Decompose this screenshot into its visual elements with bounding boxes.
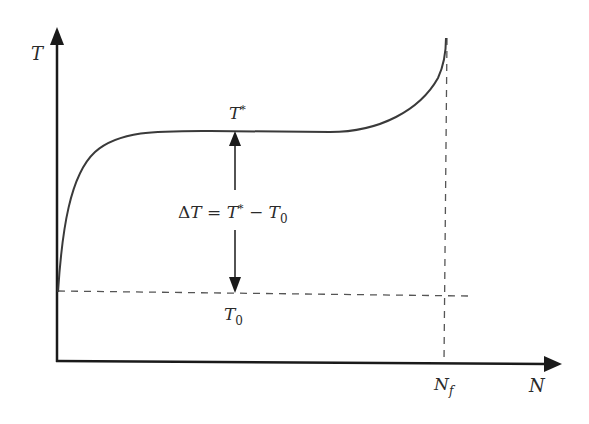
nf-reference-line (444, 38, 447, 362)
nf-label: Nf (433, 374, 456, 398)
delta-t-equation: ΔT = T* − T0 (178, 202, 288, 226)
temperature-vs-cycles-diagram: T N T* T0 Nf ΔT = T* − T0 (0, 0, 589, 424)
x-axis-label: N (528, 375, 546, 396)
t-star-label: T* (229, 103, 246, 123)
t-zero-label: T0 (224, 304, 243, 328)
y-axis (50, 27, 64, 362)
y-axis-label: T (31, 43, 45, 64)
temperature-curve (58, 38, 446, 292)
arrow-down-icon (229, 277, 241, 293)
t0-reference-line (58, 291, 470, 296)
arrow-up-icon (229, 131, 241, 146)
y-axis-arrow-icon (50, 27, 64, 45)
x-axis (56, 356, 562, 372)
x-axis-arrow-icon (544, 356, 562, 372)
